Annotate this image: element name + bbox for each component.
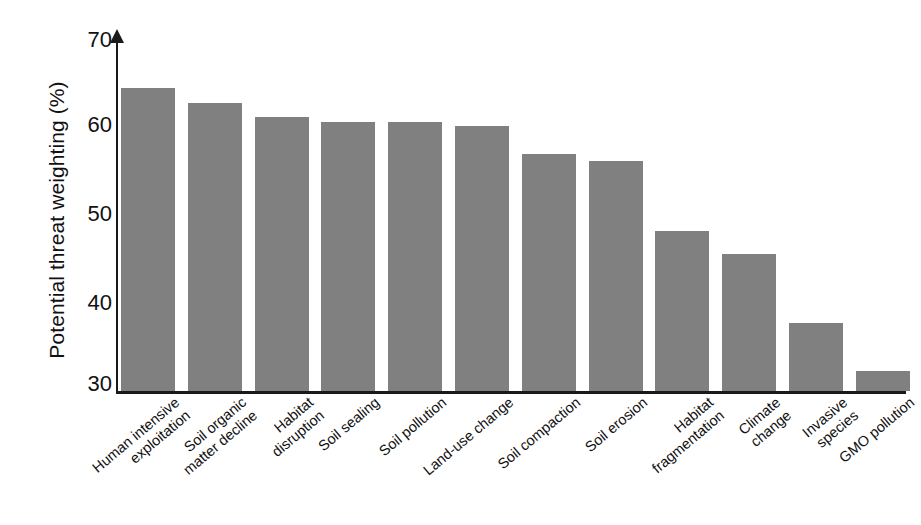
bar[interactable] (455, 126, 509, 391)
y-tick-label-40: 40 (66, 292, 112, 314)
bar[interactable] (121, 88, 175, 391)
bar-chart: Potential threat weighting (%) 70 60 50 … (0, 0, 921, 525)
bar[interactable] (321, 122, 375, 391)
x-axis-category-labels: Human intensive exploitationSoil organic… (118, 394, 918, 525)
y-tick-label-30: 30 (66, 373, 112, 395)
plot-area (118, 40, 908, 391)
bar[interactable] (388, 122, 442, 391)
bar[interactable] (722, 254, 776, 391)
y-tick-label-60: 60 (66, 114, 112, 136)
bar[interactable] (255, 117, 309, 391)
bar[interactable] (522, 154, 576, 391)
y-axis-tick-labels: 70 60 50 40 30 (66, 0, 112, 525)
y-tick-label-70: 70 (66, 29, 112, 51)
bar[interactable] (655, 231, 709, 391)
y-tick-label-50: 50 (66, 203, 112, 225)
bar[interactable] (856, 371, 910, 391)
bar[interactable] (188, 103, 242, 391)
bar[interactable] (789, 323, 843, 391)
bar[interactable] (589, 161, 643, 391)
